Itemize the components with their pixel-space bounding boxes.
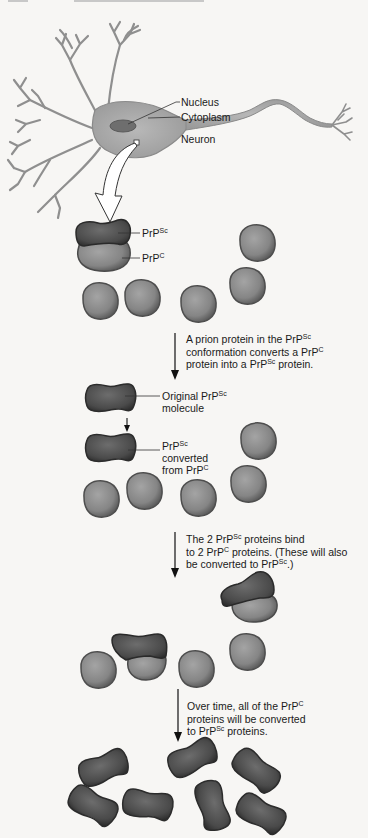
cytoplasm-label: Cytoplasm: [181, 111, 231, 123]
neuron-label: Neuron: [181, 133, 215, 145]
caption-step-1: A prion protein in the PrPSc conformatio…: [186, 333, 366, 371]
prpc-protein: [230, 268, 265, 304]
converted-prpsc-molecule: [86, 434, 136, 462]
prpc-protein: [127, 473, 162, 509]
prpc-protein: [241, 423, 276, 459]
prpc-protein: [181, 480, 216, 516]
original-prpsc-label: Original PrPSc molecule: [162, 390, 227, 414]
prpc-protein: [240, 225, 275, 261]
prpc-protein: [84, 481, 119, 517]
prpc-protein: [125, 280, 160, 316]
prpc-protein: [81, 652, 116, 688]
step-arrow-2: [171, 532, 179, 578]
nucleus-label: Nucleus: [181, 96, 219, 108]
prpc-protein: [83, 283, 118, 319]
step-arrow-3: [174, 689, 182, 742]
prpc-protein: [231, 466, 266, 502]
neuron-illustration: [8, 22, 352, 218]
prpc-protein: [181, 286, 216, 322]
prpc-protein: [179, 651, 214, 687]
caption-step-3: Over time, all of the PrPC proteins will…: [187, 700, 367, 738]
prpsc-label: PrPSc: [142, 227, 168, 239]
prpc-label: PrPC: [142, 252, 165, 264]
bound-complex-left: [112, 634, 167, 680]
final-prpsc-aggregate: [64, 735, 289, 838]
step-arrow-1: [171, 333, 179, 380]
prpc-protein: [230, 634, 265, 670]
prpsc-prpc-complex: [76, 220, 130, 272]
converted-prpsc-label: PrPSc converted from PrPC: [162, 440, 208, 476]
bound-complex-right: [221, 572, 277, 622]
small-arrow: [124, 418, 130, 432]
caption-step-2: The 2 PrPSc proteins bind to 2 PrPC prot…: [186, 533, 368, 571]
original-prpsc-molecule: [86, 384, 136, 412]
